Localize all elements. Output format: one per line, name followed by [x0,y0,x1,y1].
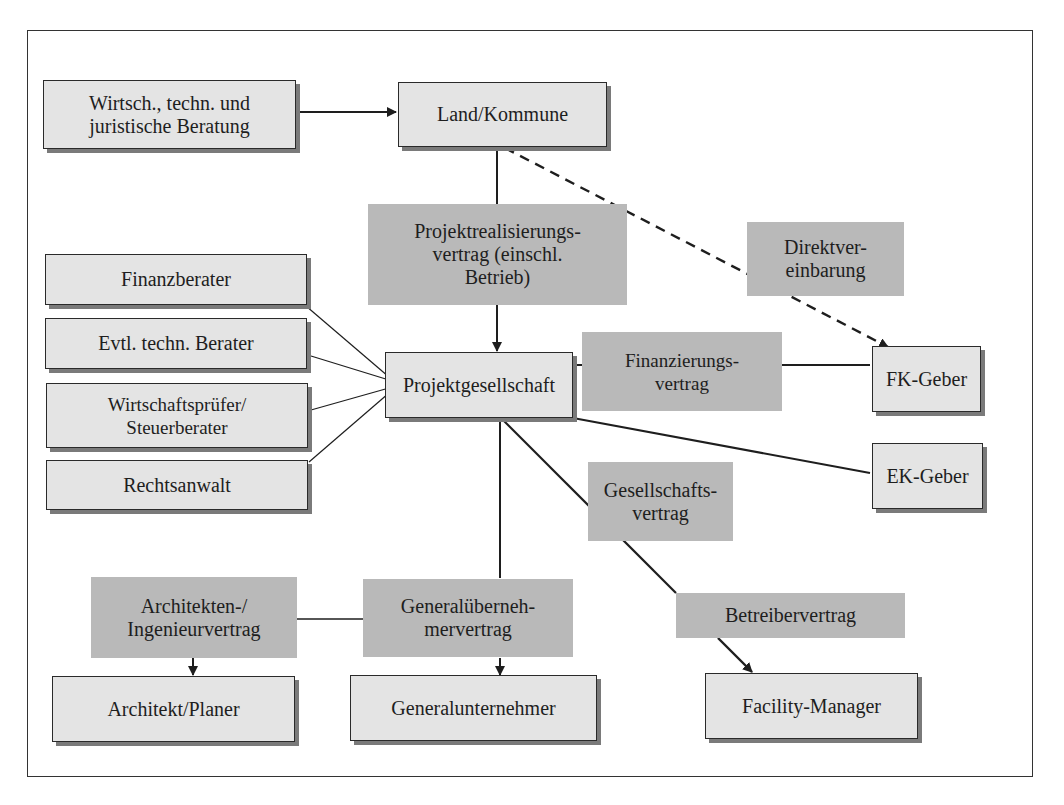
edge-wp-pg [311,388,389,410]
node-generalunternehmer: Generalunternehmer [350,675,597,741]
node-facility-manager: Facility-Manager [705,673,918,739]
node-finanzberater: Finanzberater [45,254,307,305]
node-land-kommune: Land/Kommune [398,82,607,147]
contract-gesellschaft: Gesellschafts- vertrag [588,462,733,541]
node-wirtschaftspruefer: Wirtschaftsprüfer/ Steuerberater [46,383,308,448]
edge-betreiber-fm [718,638,752,672]
node-ek-geber: EK-Geber [872,443,983,509]
node-architekt: Architekt/Planer [52,676,295,742]
contract-direktvereinbarung: Direktver- einbarung [747,222,904,296]
contract-finanzierung: Finanzierungs- vertrag [582,332,782,411]
contract-generalueberbnehmer: Generalüberneh- mervertrag [363,579,573,657]
node-techn-berater: Evtl. techn. Berater [45,318,307,369]
edge-ra-pg [309,393,389,462]
node-projektgesellschaft: Projektgesellschaft [385,352,573,418]
node-beratung: Wirtsch., techn. und juristische Beratun… [43,80,296,149]
contract-architekten: Architekten-/ Ingenieurvertrag [91,577,297,658]
edge-finanzberater-pg [306,306,389,377]
contract-projektrealisierung: Projektrealisierungs- vertrag (einschl. … [368,204,627,305]
node-rechtsanwalt: Rechtsanwalt [46,460,308,510]
contract-betreiber: Betreibervertrag [676,593,905,638]
edge-techn-pg [311,356,389,380]
node-fk-geber: FK-Geber [872,346,981,412]
